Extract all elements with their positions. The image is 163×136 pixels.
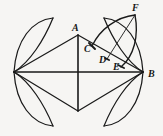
vertex-label-A: A — [72, 23, 79, 33]
vertex-label-F: F — [132, 3, 139, 13]
vertex-label-B: B — [148, 69, 155, 79]
vertex-label-D: D — [99, 55, 106, 65]
figure-background — [0, 0, 163, 136]
geometry-figure: A C D E B F — [0, 0, 163, 136]
vertex-label-C: C — [84, 44, 91, 54]
figure-canvas — [0, 0, 163, 136]
vertex-label-E: E — [113, 62, 120, 72]
